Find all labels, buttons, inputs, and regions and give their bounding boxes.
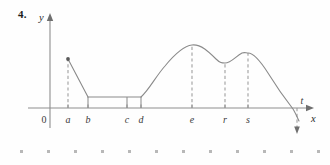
graph-canvas: y x bbox=[0, 0, 330, 165]
dashed-line-t-arrowhead bbox=[294, 127, 300, 135]
margin-dot bbox=[20, 150, 23, 153]
curve-segment-linear-ab bbox=[68, 59, 88, 97]
tick-label-r: r bbox=[223, 114, 227, 125]
margin-dot bbox=[47, 150, 50, 153]
endpoint-dot-a bbox=[66, 57, 70, 61]
dashed-reference-lines bbox=[68, 45, 300, 134]
margin-dot bbox=[155, 150, 158, 153]
margin-dot bbox=[182, 150, 185, 153]
x-axis-arrowhead bbox=[306, 105, 314, 111]
margin-dot bbox=[209, 150, 212, 153]
curve-segment-smooth-dt bbox=[141, 45, 299, 121]
margin-dot bbox=[317, 150, 320, 153]
tick-label-c: c bbox=[125, 114, 130, 125]
tick-label-s: s bbox=[246, 114, 250, 125]
x-axis-tick-labels: 0 a b c d e r s t bbox=[42, 95, 304, 125]
x-axis-group: x bbox=[28, 105, 316, 124]
y-axis-label: y bbox=[38, 12, 44, 23]
margin-dot bbox=[290, 150, 293, 153]
tick-label-d: d bbox=[139, 114, 145, 125]
x-axis-label: x bbox=[310, 113, 316, 124]
tick-label-b: b bbox=[86, 114, 91, 125]
margin-dot bbox=[101, 150, 104, 153]
function-curve-group bbox=[66, 45, 299, 121]
tick-label-e: e bbox=[190, 114, 195, 125]
tick-label-t: t bbox=[301, 95, 304, 106]
margin-dot bbox=[74, 150, 77, 153]
margin-dot bbox=[263, 150, 266, 153]
margin-dot bbox=[128, 150, 131, 153]
tick-label-a: a bbox=[66, 114, 71, 125]
y-axis-arrowhead bbox=[47, 13, 53, 21]
figure-container: 4. y x bbox=[0, 0, 330, 165]
margin-dot bbox=[236, 150, 239, 153]
y-axis-group: y bbox=[38, 12, 53, 128]
origin-label: 0 bbox=[42, 114, 47, 125]
